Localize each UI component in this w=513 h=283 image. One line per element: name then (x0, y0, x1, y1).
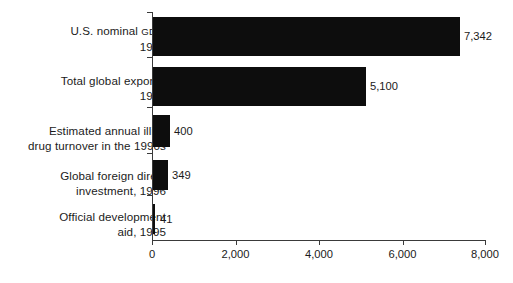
category-label-line1-pre: Estimated annual illicit (49, 124, 166, 137)
category-label-total-global-exports: Total global exports, 1996 (6, 73, 166, 103)
category-label-us-nominal-gdp: U.S. nominal GDP, 1996 (6, 23, 166, 54)
bar-foreign-direct-investment (153, 160, 168, 190)
bar-value-label: 5,100 (370, 80, 398, 92)
category-label-line1-pre: Official development (59, 210, 166, 223)
x-axis-tick-label: 0 (149, 248, 155, 261)
category-label-line1-pre: Total global exports, (61, 74, 166, 87)
x-axis-tick (319, 240, 320, 245)
category-label-line2: 1996 (6, 39, 166, 54)
x-axis-tick-label: 8,000 (471, 248, 499, 261)
category-label-official-development-aid: Official development aid, 1995 (6, 209, 166, 239)
category-label-foreign-direct-investment: Global foreign direct investment, 1996 (6, 168, 166, 198)
bar-value-label: 7,342 (464, 30, 492, 42)
x-axis-tick (403, 240, 404, 245)
category-label-line2: aid, 1995 (6, 224, 166, 239)
x-axis-tick-label: 4,000 (305, 248, 333, 261)
x-axis-tick-label: 6,000 (389, 248, 417, 261)
bar-official-development-aid (153, 204, 155, 234)
category-label-line1-pre: Global foreign direct (60, 169, 166, 182)
bar-value-label: 41 (160, 213, 172, 225)
y-axis-tick (147, 107, 152, 108)
bar-chart: U.S. nominal GDP, 1996 Total global expo… (0, 0, 513, 283)
category-label-illicit-drug-turnover: Estimated annual illicit drug turnover i… (6, 123, 166, 153)
x-axis-tick (485, 240, 486, 245)
bar-us-nominal-gdp (153, 17, 460, 56)
category-label-line2: investment, 1996 (6, 183, 166, 198)
y-axis-tick (147, 57, 152, 58)
x-axis-tick-label: 2,000 (222, 248, 250, 261)
bar-illicit-drug-turnover (153, 115, 170, 147)
y-axis-tick (147, 12, 152, 13)
y-axis-tick (147, 153, 152, 154)
x-axis-tick (152, 240, 153, 245)
plot-area: 7,342 5,100 400 349 41 0 2,000 4,000 6,0… (152, 12, 486, 240)
y-axis-tick (147, 195, 152, 196)
bar-value-label: 400 (174, 125, 193, 137)
bar-total-global-exports (153, 67, 366, 106)
category-label-line2: 1996 (6, 88, 166, 103)
bar-value-label: 349 (172, 169, 191, 181)
category-label-line2: drug turnover in the 1990s (6, 138, 166, 153)
category-label-line1-pre: U.S. nominal (70, 24, 141, 37)
x-axis-tick (236, 240, 237, 245)
